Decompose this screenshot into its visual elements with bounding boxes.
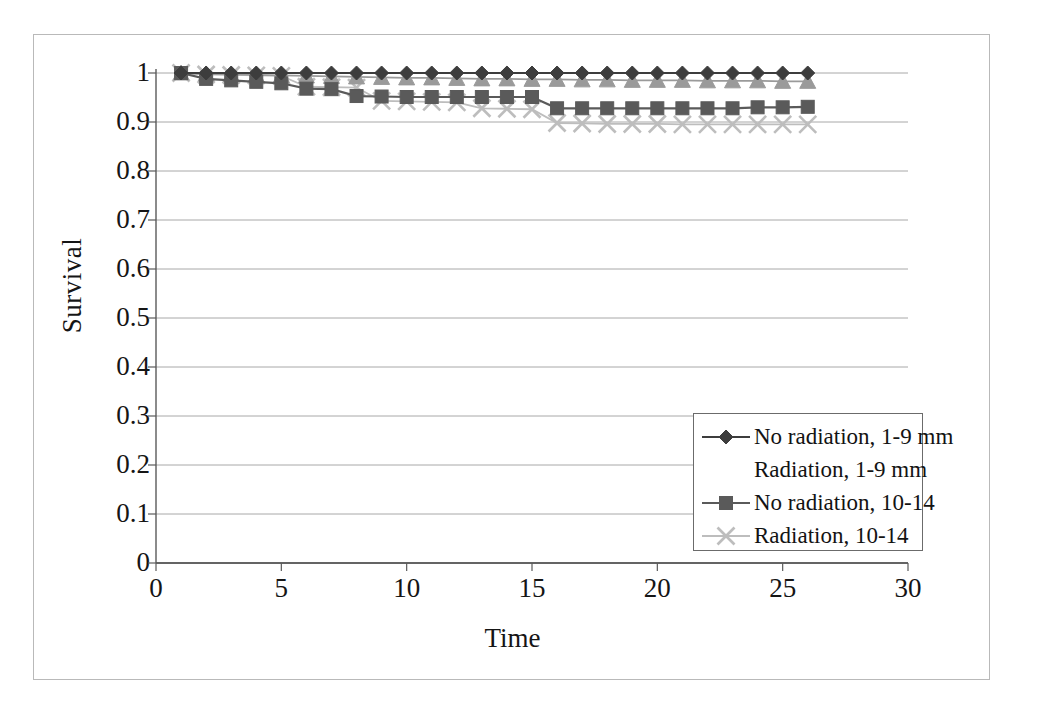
plot-wrapper: Survival Time 00.10.20.30.40.50.60.70.80… [34,35,989,679]
chart-figure: Survival Time 00.10.20.30.40.50.60.70.80… [33,34,990,680]
legend-item: Radiation, 10-14 [694,519,922,552]
legend-item-label: No radiation, 10-14 [754,490,935,516]
plot-canvas [34,35,991,681]
legend-item: No radiation, 10-14 [694,486,922,519]
legend-item-label: Radiation, 10-14 [754,523,909,549]
legend-item: No radiation, 1-9 mm [694,420,922,453]
legend-key-square-icon [700,492,752,514]
legend-key-triangle-icon [700,459,752,481]
chart-legend: No radiation, 1-9 mm Radiation, 1-9 mm N… [693,413,923,551]
legend-item-label: Radiation, 1-9 mm [754,457,927,483]
legend-key-diamond-icon [700,426,752,448]
legend-item-label: No radiation, 1-9 mm [754,424,953,450]
legend-key-x-icon [700,525,752,547]
legend-item: Radiation, 1-9 mm [694,453,922,486]
